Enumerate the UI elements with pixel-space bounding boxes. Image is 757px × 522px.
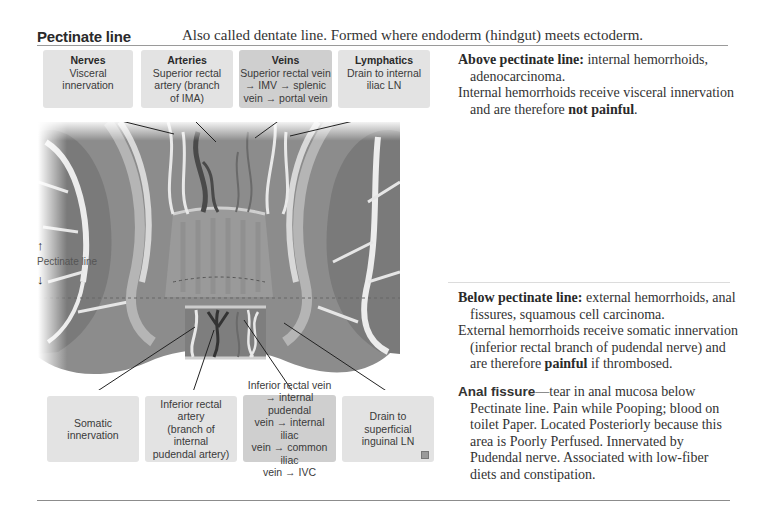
above-pectinate-section: Above pectinate line: internal hemorrhoi… [458,52,738,118]
above-term: Above pectinate line: [458,52,584,67]
footer-divider [37,500,730,501]
box-body: Drain to internal iliac LN [338,67,430,92]
below-term: Below pectinate line: [458,290,582,305]
box-title: Nerves [43,54,133,67]
figure-reference-icon [421,451,429,459]
box-body: Visceral innervation [43,67,133,92]
below-pectinate-section: Below pectinate line: external hemorrhoi… [458,290,738,373]
above-pectinate-innervation: Internal hemorrhoids receive visceral in… [458,85,738,118]
below-post-text: if thrombosed. [587,356,672,371]
not-painful-emphasis: not painful [568,102,634,117]
somatic-innervation-box: Somatic innervation [47,396,139,462]
box-body: Superior rectal artery (branch of IMA) [141,67,233,105]
section-description: Also called dentate line. Formed where e… [182,27,643,44]
arteries-box: Arteries Superior rectal artery (branch … [141,50,233,108]
section-title: Pectinate line [37,28,131,45]
period: . [634,102,638,117]
header-divider [37,45,728,46]
above-pectinate-summary: Above pectinate line: internal hemorrhoi… [458,52,738,85]
lymphatics-box: Lymphatics Drain to internal iliac LN [338,50,430,108]
box-body: Superior rectal vein → IMV → splenic vei… [239,67,332,105]
inferior-rectal-vein-box: Inferior rectal vein → internal pudendal… [243,395,336,462]
veins-box: Veins Superior rectal vein → IMV → splen… [239,50,332,108]
anal-fissure-term: Anal fissure [458,384,535,399]
painful-emphasis: painful [545,356,588,371]
anal-fissure-paragraph: Anal fissure—tear in anal mucosa below P… [458,384,738,483]
arrow-down-icon: ↓ [37,273,44,286]
nerves-box: Nerves Visceral innervation [43,50,133,108]
section-divider [448,282,730,283]
anal-fissure-section: Anal fissure—tear in anal mucosa below P… [458,384,738,483]
box-title: Arteries [141,54,233,67]
below-pectinate-summary: Below pectinate line: external hemorrhoi… [458,290,738,323]
pectinate-line-label: Pectinate line [37,256,97,267]
arrow-up-icon: ↑ [37,239,44,252]
inferior-rectal-artery-box: Inferior rectal artery (branch of intern… [145,396,237,462]
below-pectinate-innervation: External hemorrhoids receive somatic inn… [458,323,738,373]
box-title: Lymphatics [338,54,430,67]
box-title: Veins [239,54,332,67]
